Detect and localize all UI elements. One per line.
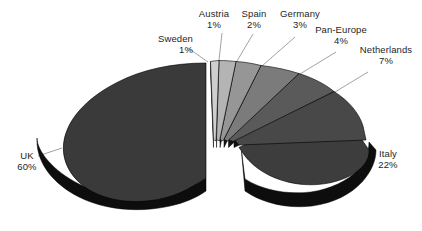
slice-label-germany-name: Germany (272, 8, 328, 19)
leader-line-paneurope (300, 52, 336, 74)
slice-label-austria: Austria 1% (190, 8, 238, 30)
slice-label-netherlands: Netherlands 7% (351, 44, 421, 66)
slice-label-sweden: Sweden 1% (137, 33, 193, 55)
leader-line-germany (262, 37, 295, 66)
slice-label-uk-value: 60% (8, 161, 46, 172)
slice-label-spain: Spain 2% (234, 8, 274, 30)
leader-line-netherlands (335, 72, 368, 92)
slice-label-netherlands-name: Netherlands (351, 44, 421, 55)
slice-label-italy-name: Italy (366, 148, 410, 159)
slice-label-uk: UK 60% (8, 150, 46, 172)
slice-label-uk-name: UK (8, 150, 46, 161)
leader-line-austria (219, 33, 222, 60)
pie-chart-figure: Sweden 1% Austria 1% Spain 2% Germany 3%… (0, 0, 422, 231)
slice-label-spain-name: Spain (234, 8, 274, 19)
leader-line-spain (237, 34, 253, 61)
slice-label-sweden-name: Sweden (137, 33, 193, 44)
slice-label-spain-value: 2% (234, 19, 274, 30)
slice-label-austria-value: 1% (190, 19, 238, 30)
pie-slice-tops (63, 61, 369, 202)
slice-label-italy: Italy 22% (366, 148, 410, 170)
slice-uk[interactable] (63, 63, 206, 202)
slice-label-italy-value: 22% (366, 159, 410, 170)
slice-label-austria-name: Austria (190, 8, 238, 19)
slice-label-pan-europe: Pan-Europe 4% (307, 24, 375, 46)
slice-label-sweden-value: 1% (137, 44, 193, 55)
slice-label-netherlands-value: 7% (351, 55, 421, 66)
slice-label-pan-europe-name: Pan-Europe (307, 24, 375, 35)
